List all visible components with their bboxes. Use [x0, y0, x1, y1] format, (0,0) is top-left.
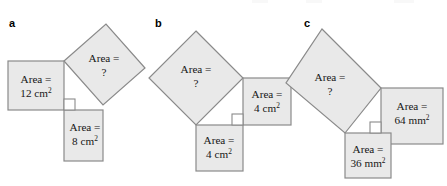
panel-b-right-unit: cm [263, 102, 277, 114]
panel-c-right-value: 64 [394, 114, 406, 126]
panel-b-letter: b [155, 17, 162, 29]
panel-b-bottom-unit: cm [215, 148, 229, 160]
panel-c-hyp-label-line2: ? [328, 85, 333, 97]
panel-c-bottom-exponent: 2 [382, 156, 386, 165]
panel-a-left-value: 12 [20, 87, 31, 99]
panel-b-right-angle-icon [232, 114, 243, 125]
panel-a-letter: a [9, 17, 16, 29]
panel-a-bottom-unit: cm [81, 135, 95, 147]
panel-c-letter: c [304, 17, 310, 29]
figure-canvas: a Area = 12 cm2 Area = ? Area = 8 cm2 b [0, 0, 447, 186]
panel-a-hyp-label-line2: ? [102, 66, 107, 78]
panel-a-left-unit: cm [34, 87, 48, 99]
panel-c-right-exponent: 2 [426, 113, 430, 122]
panel-b: b Area = ? Area = 4 cm2 Area = 4 cm2 [149, 17, 291, 171]
panel-a-right-angle-icon [64, 99, 75, 110]
panel-b-hyp-label-line1: Area = [181, 63, 212, 75]
panel-a-left-exponent: 2 [48, 86, 52, 95]
panel-c: c Area = ? Area = 64 mm2 Area = 36 mm2 [286, 17, 443, 178]
panel-a-left-label-line2: 12 cm2 [20, 86, 52, 100]
panel-c-right-label-line2: 64 mm2 [394, 113, 429, 127]
panel-a-hypotenuse-square [64, 24, 145, 105]
panel-a-left-square [8, 61, 64, 110]
panel-c-right-label-line1: Area = [397, 100, 428, 112]
panel-c-hyp-label-line1: Area = [315, 71, 346, 83]
panel-c-bottom-label-line1: Area = [353, 143, 384, 155]
pythagoras-squares-figure: a Area = 12 cm2 Area = ? Area = 8 cm2 b [0, 0, 447, 186]
panel-a: a Area = 12 cm2 Area = ? Area = 8 cm2 [8, 17, 145, 161]
panel-b-right-exponent: 2 [276, 101, 280, 110]
panel-a-left-label-line1: Area = [21, 73, 52, 85]
panel-c-bottom-value: 36 [350, 157, 362, 169]
panel-c-bottom-unit: mm [364, 157, 382, 169]
panel-c-right-angle-icon [370, 122, 381, 133]
panel-c-right-unit: mm [408, 114, 426, 126]
panel-b-hyp-label-line2: ? [194, 77, 199, 89]
panel-a-bottom-exponent: 2 [94, 134, 98, 143]
panel-a-bottom-label-line1: Area = [70, 121, 101, 133]
panel-c-bottom-label-line2: 36 mm2 [350, 156, 385, 170]
panel-b-bottom-label-line1: Area = [204, 134, 235, 146]
panel-a-hyp-label-line1: Area = [89, 52, 120, 64]
panel-b-right-label-line1: Area = [252, 88, 283, 100]
panel-b-bottom-exponent: 2 [228, 147, 232, 156]
